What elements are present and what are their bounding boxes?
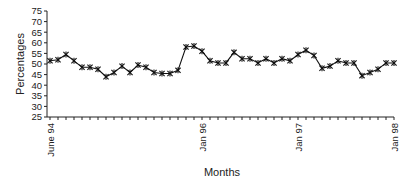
asterisk-marker-icon [111, 69, 116, 75]
x-axis: June 94Jan 96Jan 97Jan 98 [45, 117, 400, 157]
asterisk-marker-icon [303, 47, 308, 53]
y-tick-label: 30 [31, 101, 42, 112]
x-axis-title: Months [204, 166, 241, 178]
asterisk-marker-icon [367, 69, 372, 75]
asterisk-marker-icon [311, 53, 316, 59]
y-axis-title: Percentages [14, 33, 26, 95]
series-line [50, 46, 394, 77]
x-tick-label: Jan 96 [197, 123, 208, 152]
asterisk-marker-icon [375, 66, 380, 72]
asterisk-marker-icon [63, 51, 68, 57]
x-tick-label: Jan 97 [293, 123, 304, 152]
y-tick-label: 75 [31, 5, 42, 16]
y-tick-label: 60 [31, 37, 42, 48]
asterisk-marker-icon [127, 69, 132, 75]
asterisk-marker-icon [175, 67, 180, 73]
y-tick-label: 45 [31, 69, 42, 80]
y-tick-label: 25 [31, 111, 42, 122]
asterisk-marker-icon [255, 60, 260, 66]
y-tick-label: 35 [31, 90, 42, 101]
data-series [47, 43, 396, 80]
y-tick-label: 50 [31, 58, 42, 69]
line-chart: 2530354045505560657075 June 94Jan 96Jan … [0, 0, 409, 189]
asterisk-marker-icon [359, 73, 364, 79]
asterisk-marker-icon [119, 63, 124, 69]
y-tick-label: 70 [31, 16, 42, 27]
y-tick-label: 65 [31, 27, 42, 38]
y-tick-label: 55 [31, 48, 42, 59]
y-tick-label: 40 [31, 80, 42, 91]
asterisk-marker-icon [199, 48, 204, 54]
asterisk-marker-icon [231, 49, 236, 55]
x-tick-label: Jan 98 [389, 123, 400, 152]
y-axis: 2530354045505560657075 [31, 5, 47, 122]
asterisk-marker-icon [263, 56, 268, 62]
asterisk-marker-icon [271, 60, 276, 66]
asterisk-marker-icon [71, 58, 76, 64]
asterisk-marker-icon [103, 74, 108, 80]
x-tick-label: June 94 [45, 123, 56, 157]
asterisk-marker-icon [295, 51, 300, 57]
